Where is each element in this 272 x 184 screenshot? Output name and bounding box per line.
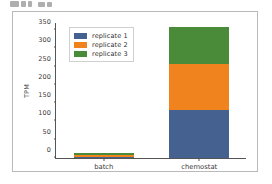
x-tick-mark xyxy=(199,158,200,161)
x-tick-label: chemostat xyxy=(181,163,217,171)
y-tick-mark xyxy=(54,138,57,139)
y-tick-mark xyxy=(54,102,57,103)
y-tick-label: 0 xyxy=(47,146,56,154)
y-axis-label: TPM xyxy=(23,83,31,97)
y-tick-mark xyxy=(54,29,57,30)
y-tick-label: 100 xyxy=(38,109,56,117)
legend-swatch-icon xyxy=(74,42,87,48)
legend-item[interactable]: replicate 1 xyxy=(74,31,128,40)
y-tick-label: 200 xyxy=(38,73,56,81)
fragment-glyph xyxy=(38,2,45,7)
x-tick-label: batch xyxy=(94,163,113,171)
chart-legend: replicate 1replicate 2replicate 3 xyxy=(69,27,134,62)
fragment-glyph xyxy=(21,1,26,7)
figure-card: TPM 050100150200250300350 batchchemostat… xyxy=(12,11,258,172)
legend-label: replicate 3 xyxy=(92,50,128,58)
legend-label: replicate 1 xyxy=(92,32,128,40)
bar-stack-chemostat[interactable] xyxy=(169,27,229,158)
legend-swatch-icon xyxy=(74,33,87,39)
bar-segment[interactable] xyxy=(169,64,229,110)
bar-stack-batch[interactable] xyxy=(74,153,134,158)
y-tick-mark xyxy=(54,83,57,84)
y-tick-label: 50 xyxy=(43,128,56,136)
cropped-ui-fragment xyxy=(0,0,272,9)
legend-swatch-icon xyxy=(74,51,87,57)
fragment-glyph xyxy=(10,1,19,7)
legend-item[interactable]: replicate 2 xyxy=(74,40,128,49)
bar-segment[interactable] xyxy=(74,157,134,158)
plot-axes: TPM 050100150200250300350 batchchemostat… xyxy=(55,23,246,159)
y-tick-label: 150 xyxy=(38,91,56,99)
bar-segment[interactable] xyxy=(169,27,229,65)
bar-segment[interactable] xyxy=(169,110,229,158)
fragment-glyph xyxy=(28,1,32,7)
legend-item[interactable]: replicate 3 xyxy=(74,49,128,58)
legend-label: replicate 2 xyxy=(92,41,128,49)
y-tick-mark xyxy=(54,157,57,158)
fragment-glyph xyxy=(47,2,52,7)
y-tick-mark xyxy=(54,47,57,48)
y-tick-mark xyxy=(54,120,57,121)
y-tick-label: 300 xyxy=(38,36,56,44)
y-tick-label: 250 xyxy=(38,55,56,63)
y-tick-mark xyxy=(54,65,57,66)
x-tick-mark xyxy=(103,158,104,161)
y-tick-label: 350 xyxy=(38,18,56,26)
